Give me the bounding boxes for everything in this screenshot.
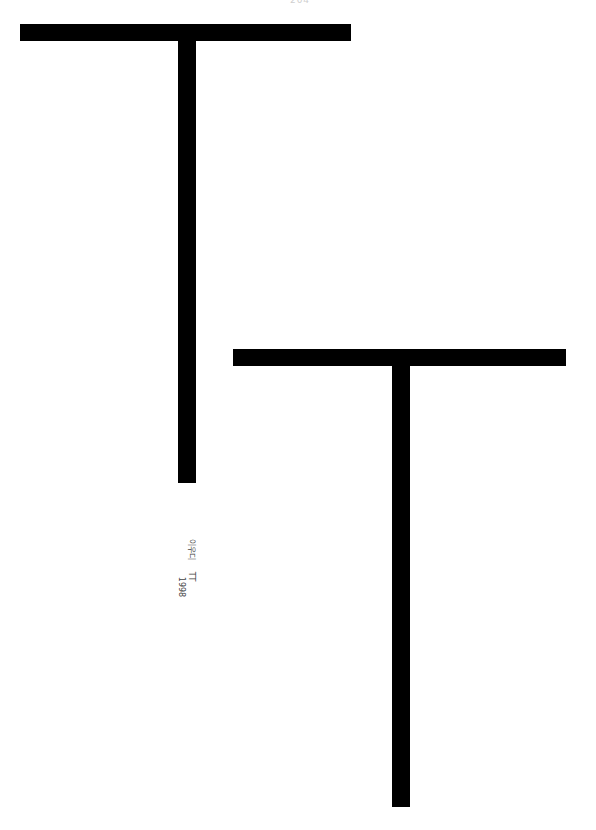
caption-line-2: 1998 [176,539,186,597]
page-number: 204 [280,0,320,5]
t1-stem [178,41,196,483]
caption-year: 1998 [177,577,186,597]
t2-stem [392,366,410,807]
artwork-caption: 이우디TT 1998 [176,539,196,597]
caption-title: TT [187,572,196,582]
caption-author: 이우디 [187,539,196,560]
t2-crossbar [233,349,566,366]
caption-line-1: 이우디TT [186,539,196,597]
t1-crossbar [20,24,351,41]
